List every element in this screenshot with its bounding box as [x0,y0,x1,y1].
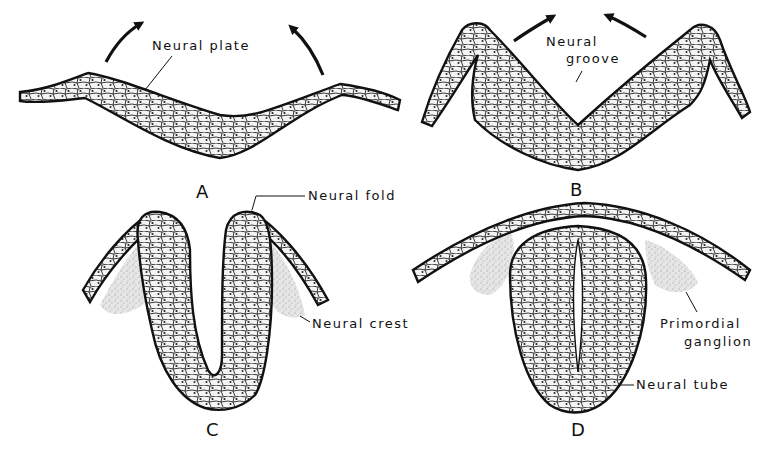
leader-line [145,56,172,90]
label-primordial-line1: Primordial [660,316,741,331]
panel-a: Neural plate A [20,24,400,202]
panel-label-d: D [571,419,585,440]
panel-label-b: B [570,179,582,200]
neural-tube-diagram: Neural plate A Neural groove B Neural fo… [0,0,769,453]
arrow-left-icon [106,24,140,62]
panel-label-c: C [206,419,219,440]
label-neural-groove-line1: Neural [546,34,598,49]
panel-b: Neural groove B [422,16,750,200]
arrow-right-icon [292,28,323,75]
label-neural-crest: Neural crest [312,316,409,331]
label-neural-groove-line2: groove [566,51,620,66]
label-neural-tube: Neural tube [636,377,729,392]
neural-plate-shape [20,73,400,158]
leader-line [300,316,310,322]
panel-label-a: A [196,181,209,202]
leader-line [576,71,582,82]
neural-fold-shape [137,212,272,410]
panel-d: Primordial ganglion Neural tube D [413,203,752,440]
leader-line [252,196,305,210]
leader-line [686,292,697,312]
label-primordial-line2: ganglion [684,334,752,349]
label-neural-plate: Neural plate [152,38,250,53]
label-neural-fold: Neural fold [308,188,396,203]
panel-c: Neural fold Neural crest C [83,188,409,440]
arrow-right-icon [608,16,646,37]
